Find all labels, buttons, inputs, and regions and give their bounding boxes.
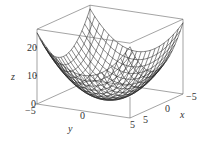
z-tick-20: 20 <box>27 43 37 53</box>
x-tick-5: 5 <box>143 115 148 125</box>
bounding-box-back <box>37 5 183 104</box>
x-tick-0: 0 <box>165 104 170 114</box>
bounding-box-front <box>37 19 183 118</box>
x-tick-neg5: −5 <box>186 92 197 102</box>
y-tick-5: 5 <box>130 120 135 130</box>
y-axis-label: y <box>68 124 72 134</box>
z-axis-label: z <box>11 72 15 82</box>
y-tick-0: 0 <box>80 111 85 121</box>
x-axis-label: x <box>180 110 184 120</box>
surface-mesh <box>37 9 183 101</box>
y-tick-neg5: −5 <box>25 106 36 116</box>
z-tick-10: 10 <box>27 71 37 81</box>
